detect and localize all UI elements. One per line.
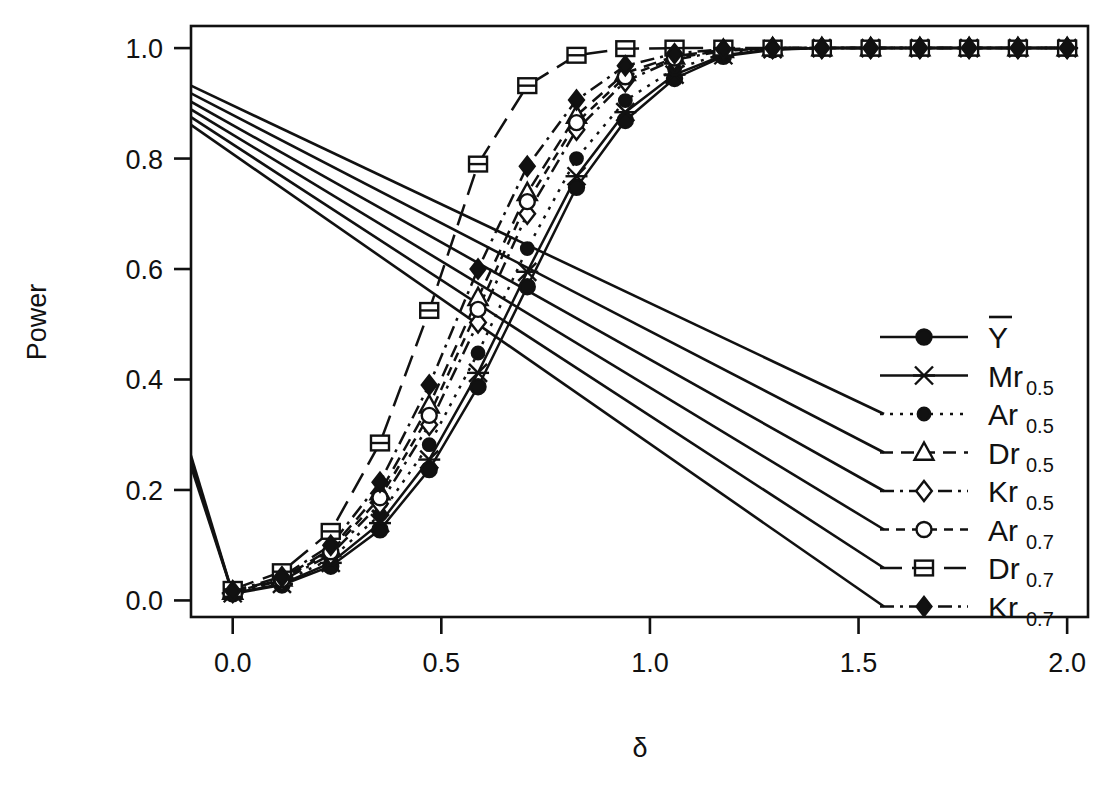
data-marker-filled-circle-small: [423, 438, 435, 450]
legend-subscript-Dr0.5: 0.5: [1026, 454, 1054, 476]
data-marker-filled-circle: [471, 379, 486, 394]
data-marker-open-circle: [422, 408, 437, 423]
data-marker-open-circle: [471, 302, 486, 317]
legend-subscript-Mr0.5: 0.5: [1026, 377, 1054, 399]
data-marker-filled-circle: [520, 279, 535, 294]
data-marker-filled-circle-small: [472, 347, 484, 359]
power-curve-figure: 0.00.51.01.52.0 0.00.20.40.60.81.0 YMr0.…: [0, 0, 1109, 792]
legend-label-Dr0.7[interactable]: Dr: [988, 552, 1020, 585]
legend-label-Ar0.5[interactable]: Ar: [988, 398, 1018, 431]
x-axis-title: δ: [632, 733, 647, 763]
data-marker-filled-circle: [618, 113, 633, 128]
data-marker-filled-circle-small: [570, 152, 582, 164]
x-tick-label: 1.5: [840, 648, 878, 678]
legend-label-Mr0.5[interactable]: Mr: [988, 360, 1023, 393]
x-tick-label: 2.0: [1048, 648, 1086, 678]
data-marker-open-circle: [917, 522, 932, 537]
y-axis-title: Power: [22, 284, 52, 361]
legend-subscript-Ar0.7: 0.7: [1026, 531, 1054, 553]
y-tick-label: 1.0: [125, 34, 163, 64]
y-tick-label: 0.4: [125, 365, 163, 395]
x-tick-label: 0.0: [214, 648, 252, 678]
legend-label-Kr0.7[interactable]: Kr: [988, 591, 1018, 624]
y-tick-label: 0.0: [125, 586, 163, 616]
data-marker-open-circle: [520, 194, 535, 209]
legend-label-Ybar[interactable]: Y: [988, 321, 1008, 354]
y-tick-label: 0.6: [125, 255, 163, 285]
y-tick-label: 0.8: [125, 145, 163, 175]
x-tick-label: 1.0: [631, 648, 669, 678]
figure-background: [0, 0, 1109, 792]
legend-subscript-Kr0.7: 0.7: [1026, 608, 1054, 630]
legend-label-Kr0.5[interactable]: Kr: [988, 475, 1018, 508]
y-tick-label: 0.2: [125, 476, 163, 506]
legend-subscript-Dr0.7: 0.7: [1026, 569, 1054, 591]
legend-label-Ar0.7[interactable]: Ar: [988, 514, 1018, 547]
legend-label-Dr0.5[interactable]: Dr: [988, 437, 1020, 470]
data-marker-open-circle: [569, 115, 584, 130]
data-marker-filled-circle: [917, 330, 932, 345]
data-marker-filled-circle-small: [521, 242, 533, 254]
legend-subscript-Ar0.5: 0.5: [1026, 415, 1054, 437]
chart-canvas: 0.00.51.01.52.0 0.00.20.40.60.81.0 YMr0.…: [0, 0, 1109, 792]
data-marker-filled-circle-small: [918, 408, 930, 420]
legend-subscript-Kr0.5: 0.5: [1026, 492, 1054, 514]
x-tick-label: 0.5: [423, 648, 461, 678]
data-marker-filled-circle-small: [619, 94, 631, 106]
